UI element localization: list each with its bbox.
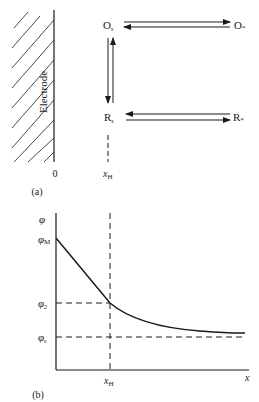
electrode-label: Electrode xyxy=(37,71,49,113)
panel-b: φ x φM φ2 φs xH (b) xyxy=(32,213,250,401)
phi-m-label: φM xyxy=(38,233,51,246)
y-axis-label: φ xyxy=(39,213,45,225)
species-o-surface: Os xyxy=(103,19,114,32)
species-o-bulk: O* xyxy=(234,19,246,32)
double-layer-diagram: Electrode 0 (a) Os O* Rs R* xH φ x φM φ2… xyxy=(0,0,259,402)
xh-label-b: xH xyxy=(103,375,114,388)
x-axis-label: x xyxy=(244,372,250,383)
phi-2-label: φ2 xyxy=(38,297,47,310)
potential-curve xyxy=(56,238,245,333)
phi-s-label: φs xyxy=(38,331,47,344)
panel-a-label: (a) xyxy=(31,186,42,198)
origin-label: 0 xyxy=(53,168,58,179)
species-r-bulk: R* xyxy=(233,111,244,124)
xh-label-a: xH xyxy=(102,168,113,181)
panel-a: Electrode 0 (a) Os O* Rs R* xH xyxy=(12,10,246,198)
species-r-surface: Rs xyxy=(104,111,114,124)
panel-b-label: (b) xyxy=(32,389,44,401)
